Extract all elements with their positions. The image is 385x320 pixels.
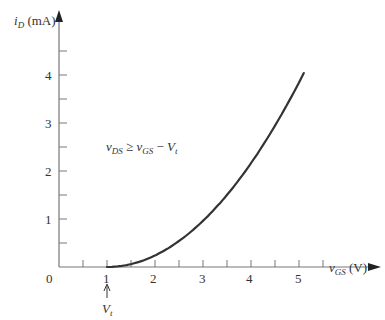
cond-minus: − — [153, 139, 167, 154]
y-tick-label: 3 — [45, 117, 52, 130]
x-tick-label: 1 — [103, 272, 110, 285]
cond-op: ≥ — [123, 139, 137, 154]
x-axis-label: vGS (V) — [329, 261, 367, 277]
x-tick-label: 4 — [246, 272, 253, 285]
y-axis-unit: (mA) — [27, 13, 55, 28]
origin-label: 0 — [46, 272, 53, 285]
plot-area — [0, 0, 385, 320]
vt-sub: t — [110, 308, 113, 318]
x-axis-arrow-icon — [368, 263, 381, 271]
id-vgs-curve — [107, 73, 304, 267]
cond-sub-b: GS — [142, 146, 153, 156]
x-axis-unit: (V) — [349, 260, 367, 275]
x-axis-sub: GS — [335, 267, 346, 277]
y-tick-label: 4 — [45, 69, 52, 82]
saturation-condition-annotation: vDS ≥ vGS − Vt — [106, 140, 178, 156]
cond-sub-a: DS — [112, 146, 123, 156]
y-axis-sub: D — [18, 20, 25, 30]
y-axis-arrow-icon — [55, 10, 63, 22]
y-tick-label: 1 — [45, 213, 52, 226]
y-axis-label: iD (mA) — [14, 14, 56, 30]
cond-sub-c: t — [175, 146, 178, 156]
x-tick-label: 3 — [199, 272, 206, 285]
x-tick-label: 2 — [150, 272, 157, 285]
vt-var: V — [102, 301, 110, 316]
cond-var-c: V — [167, 139, 175, 154]
id-vs-vgs-chart: iD (mA) vGS (V) 0 1 2 3 4 5 1 2 3 4 Vt v… — [0, 0, 385, 320]
vt-label: Vt — [102, 302, 112, 318]
x-tick-label: 5 — [295, 272, 302, 285]
y-tick-label: 2 — [45, 165, 52, 178]
